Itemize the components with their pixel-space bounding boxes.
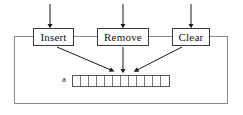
array-cell: [89, 76, 97, 86]
block-diagram: Insert Remove Clear a: [0, 0, 243, 115]
array-cell: [137, 76, 145, 86]
operation-box-insert-label: Insert: [40, 32, 66, 43]
array-cell: [73, 76, 81, 86]
array-cell: [113, 76, 121, 86]
array-variable-label: a: [62, 74, 66, 84]
array-cell: [121, 76, 129, 86]
array-cell: [153, 76, 161, 86]
array-cell: [97, 76, 105, 86]
array-cell: [105, 76, 113, 86]
array-cells-container: [72, 75, 170, 87]
diagram-lines-layer: [0, 0, 243, 115]
operation-box-remove[interactable]: Remove: [97, 28, 149, 46]
operation-box-remove-label: Remove: [104, 32, 142, 43]
array-cell: [129, 76, 137, 86]
operation-box-clear[interactable]: Clear: [172, 28, 210, 46]
operation-box-clear-label: Clear: [179, 32, 204, 43]
access-arrow-insert-to-array: [57, 47, 111, 70]
array-cell: [145, 76, 153, 86]
enclosure-rect: [15, 37, 228, 104]
array-cell: [81, 76, 89, 86]
array-cell: [161, 76, 169, 86]
access-arrow-clear-to-array: [137, 47, 182, 70]
operation-box-insert[interactable]: Insert: [33, 28, 74, 46]
